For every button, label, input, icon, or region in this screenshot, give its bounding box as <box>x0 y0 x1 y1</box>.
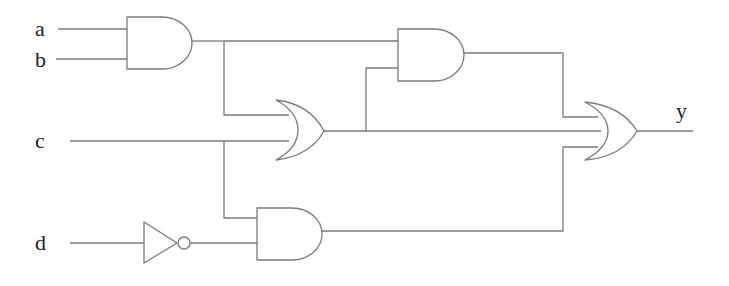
or1-output-wire <box>324 68 601 131</box>
and2-output-wire <box>464 53 598 117</box>
and-gate-1 <box>127 17 192 69</box>
not-gate-bubble <box>178 237 190 249</box>
and3-output-wire <box>322 147 598 231</box>
not-gate-triangle <box>144 222 177 263</box>
and-gate-2 <box>398 29 464 81</box>
input-label-d: d <box>35 230 46 255</box>
or-gate-1 <box>276 100 324 160</box>
logic-circuit-diagram: a b c d y <box>0 0 729 286</box>
input-wire-c <box>70 141 289 218</box>
and-gate-3 <box>257 208 322 260</box>
and1-output-wire <box>192 41 398 115</box>
output-label-y: y <box>676 98 687 123</box>
not-gate <box>144 222 190 263</box>
input-label-a: a <box>35 16 45 41</box>
input-label-b: b <box>35 47 46 72</box>
input-label-c: c <box>35 128 45 153</box>
